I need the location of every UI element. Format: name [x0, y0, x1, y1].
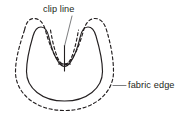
diagram-canvas: clip line fabric edge — [0, 0, 182, 121]
fabric-edge-label: fabric edge — [128, 80, 175, 90]
notch-clipping-diagram: clip line fabric edge — [0, 0, 182, 121]
clip-line-leader — [65, 16, 72, 45]
clip-line-label: clip line — [43, 4, 75, 14]
center-cross — [59, 46, 71, 72]
clip-line-leader-line — [65, 16, 72, 45]
